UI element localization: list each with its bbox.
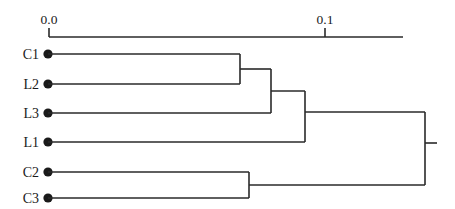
leaf-label-c3: C3 (23, 191, 39, 206)
leaf-labels: C1 L2 L3 L1 C2 C3 (23, 47, 39, 206)
leaf-label-c2: C2 (23, 165, 39, 180)
axis-tick-label-0.1: 0.1 (317, 12, 334, 27)
axis-tick-label-0.0: 0.0 (41, 12, 58, 27)
leaf-label-l1: L1 (23, 135, 39, 150)
dendrogram-figure: 0.0 0.1 C1 L2 L3 L1 C2 C3 (0, 0, 455, 209)
leaf-label-l3: L3 (23, 106, 39, 121)
distance-axis: 0.0 0.1 (41, 12, 403, 37)
leaf-label-l2: L2 (23, 77, 39, 92)
dendrogram-links (48, 54, 437, 198)
leaf-markers (43, 49, 52, 202)
leaf-label-c1: C1 (23, 47, 39, 62)
dendrogram-plot: 0.0 0.1 C1 L2 L3 L1 C2 C3 (0, 0, 455, 209)
